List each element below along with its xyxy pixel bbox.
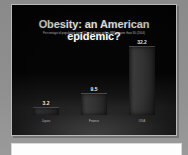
- bar-value-label: 9.5: [91, 86, 98, 92]
- bar-japan: [33, 107, 59, 115]
- slide-subtitle: Percentage of population aged 15 and abo…: [12, 31, 176, 35]
- bar-group-usa: 32.2: [129, 39, 155, 115]
- bar-group-japan: 3.2: [33, 39, 59, 115]
- bar-chart: 3.2 9.5 32.2 Japan France USA: [22, 39, 166, 129]
- content-panel: [11, 143, 182, 155]
- chart-plot-area: 3.2 9.5 32.2: [22, 39, 166, 115]
- bar-value-label: 3.2: [43, 100, 50, 106]
- bar-group-france: 9.5: [81, 39, 107, 115]
- presentation-slide[interactable]: Obesity: an American epidemic? Percentag…: [11, 4, 177, 136]
- bar-france: [81, 93, 107, 115]
- bar-value-label: 32.2: [137, 39, 147, 45]
- axis-label-france: France: [81, 119, 107, 123]
- chart-category-axis: Japan France USA: [22, 119, 166, 127]
- axis-label-japan: Japan: [33, 119, 59, 123]
- bar-usa: [129, 46, 155, 115]
- axis-label-usa: USA: [129, 119, 155, 123]
- slide-thumbnail-page: Obesity: an American epidemic? Percentag…: [0, 0, 188, 155]
